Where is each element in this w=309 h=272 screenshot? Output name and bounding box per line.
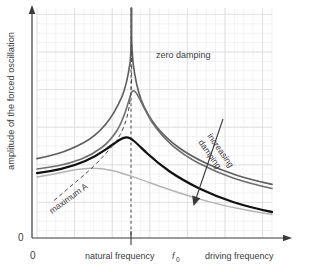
y-origin-label: 0 [18,232,24,243]
x-tick-label-text: natural frequency [85,251,155,261]
x-origin-label: 0 [30,250,36,261]
y-axis-label: amplitude of the forced oscillation [6,32,16,170]
x-axis-label: driving frequency [205,251,274,261]
resonance-chart: zero damping increasing damping maximum … [0,0,309,272]
chart-svg: zero damping increasing damping maximum … [0,0,309,272]
label-zero-damping: zero damping [156,50,211,60]
x-tick-subscript: 0 [176,256,180,263]
svg-text:amplitude of the forced oscill: amplitude of the forced oscillation [6,32,16,170]
